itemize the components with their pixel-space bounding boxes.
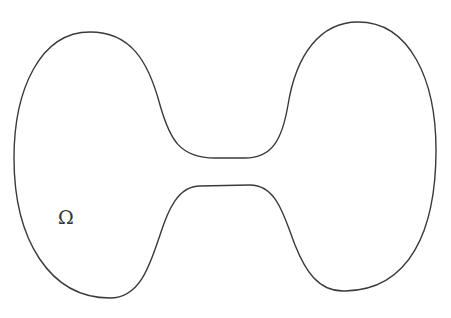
domain-label-omega: Ω: [58, 208, 74, 227]
domain-boundary: [14, 22, 436, 298]
domain-diagram: [0, 0, 451, 318]
